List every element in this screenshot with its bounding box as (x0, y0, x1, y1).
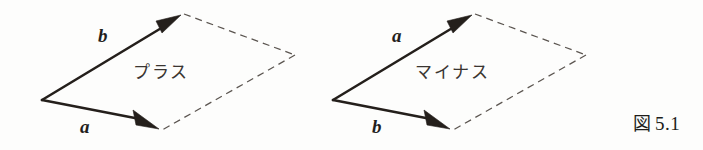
diagram-minus: a b マイナス (333, 14, 586, 137)
vector-a-shaft-plus (42, 100, 140, 119)
caption-label: 図 (633, 113, 651, 134)
diagram-inner-label-minus: マイナス (415, 62, 489, 82)
dashed-edge-minus-upper (475, 14, 586, 55)
vector-label-upper-plus: b (98, 25, 108, 46)
vector-b-arrowhead-minus (424, 110, 450, 129)
figure-caption: 図 5.1 (633, 113, 680, 134)
vector-b-shaft-minus (333, 100, 431, 119)
diagram-inner-label-plus: プラス (133, 62, 189, 82)
vector-label-lower-plus: a (80, 116, 90, 137)
vector-label-upper-minus: a (392, 25, 402, 46)
vector-a-arrowhead-plus (133, 110, 159, 129)
vector-label-lower-minus: b (372, 116, 382, 137)
figure-illustration: b a プラス a b マイナス 図 5.1 (0, 0, 703, 150)
figure-container: b a プラス a b マイナス 図 5.1 (0, 0, 703, 150)
dashed-edge-plus-upper (184, 14, 295, 55)
diagram-plus: b a プラス (42, 14, 295, 137)
caption-number: 5.1 (655, 113, 680, 134)
